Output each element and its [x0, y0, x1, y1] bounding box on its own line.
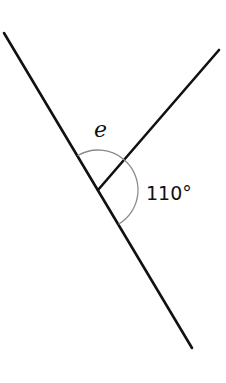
angle-e-arc: [78, 150, 125, 160]
angle-e-label: e: [94, 117, 107, 142]
angle-110-arc: [119, 160, 139, 225]
ray-line: [98, 50, 219, 190]
angle-diagram: e 110°: [0, 0, 226, 383]
angle-110-label: 110°: [146, 182, 192, 204]
